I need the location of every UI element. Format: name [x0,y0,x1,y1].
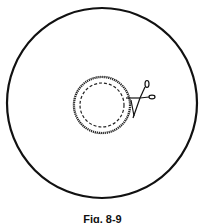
inner-rough-ring [73,76,131,134]
figure-caption: Fig. 8-9 [0,213,205,223]
dashed-circle [80,83,124,127]
diagram-canvas [0,0,205,223]
outer-circle [7,8,197,198]
